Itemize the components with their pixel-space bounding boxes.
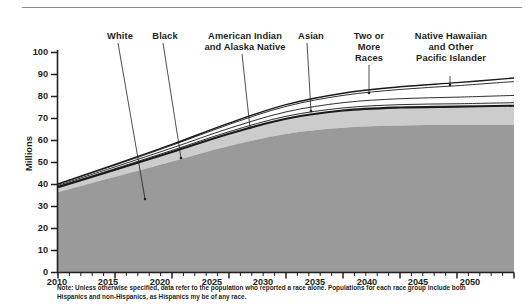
leader-endpoint-american-indian-alaska-native: [249, 127, 252, 130]
chart-footnote: Note: Unless otherwise specified, data r…: [57, 284, 487, 301]
chart-page: White Black American Indian and Alaska N…: [0, 0, 530, 306]
leader-endpoint-white: [144, 198, 147, 201]
leader-line-black: [163, 43, 181, 158]
area-series-0: [58, 125, 514, 273]
stacked-area-plot: [0, 0, 530, 306]
leader-endpoint-black: [180, 157, 183, 160]
x-axis-ticks: [58, 273, 514, 279]
leader-endpoint-asian: [310, 110, 313, 113]
leader-endpoint-native-hawaiian-pacific-islander: [449, 84, 452, 87]
leader-endpoint-two-or-more-races: [368, 92, 371, 95]
